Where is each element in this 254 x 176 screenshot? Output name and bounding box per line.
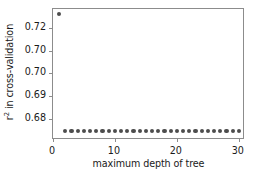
x-tick-label: 20 [156,145,196,156]
y-tick-mark [49,73,53,74]
data-point [113,129,117,133]
scatter-chart-figure: r2 in cross-validation 0.720.700.700.690… [0,0,254,176]
data-point [138,129,142,133]
data-point [156,129,160,133]
data-point [144,129,148,133]
data-point [100,129,104,133]
x-tick-label: 10 [94,145,134,156]
data-point [94,129,98,133]
x-tick-label: 0 [32,145,72,156]
data-point [107,129,111,133]
x-tick-mark [177,138,178,142]
data-point [88,129,92,133]
data-point [69,129,73,133]
data-point [237,129,241,133]
data-point [169,129,173,133]
data-point [224,129,228,133]
data-point [231,129,235,133]
y-tick-mark [49,28,53,29]
x-tick-mark [115,138,116,142]
data-point [187,129,191,133]
data-point [119,129,123,133]
data-point [125,129,129,133]
data-point [175,129,179,133]
data-point [206,129,210,133]
data-point [57,12,61,16]
data-point [162,129,166,133]
plot-inner [53,9,243,138]
data-point [218,129,222,133]
plot-area [52,8,244,139]
x-tick-mark [239,138,240,142]
y-tick-mark [49,51,53,52]
data-point [63,129,67,133]
y-tick-label: 0.70 [2,45,46,55]
y-tick-label: 0.69 [2,90,46,100]
y-tick-label: 0.72 [2,22,46,32]
data-point [181,129,185,133]
x-tick-mark [53,138,54,142]
x-axis-label: maximum depth of tree [52,158,245,169]
data-point [82,129,86,133]
data-point [212,129,216,133]
data-point [131,129,135,133]
data-point [200,129,204,133]
y-tick-label: 0.68 [2,113,46,123]
y-tick-mark [49,96,53,97]
y-tick-mark [49,119,53,120]
data-point [193,129,197,133]
data-point [150,129,154,133]
data-point [76,129,80,133]
x-tick-label: 30 [218,145,254,156]
y-tick-label: 0.70 [2,67,46,77]
